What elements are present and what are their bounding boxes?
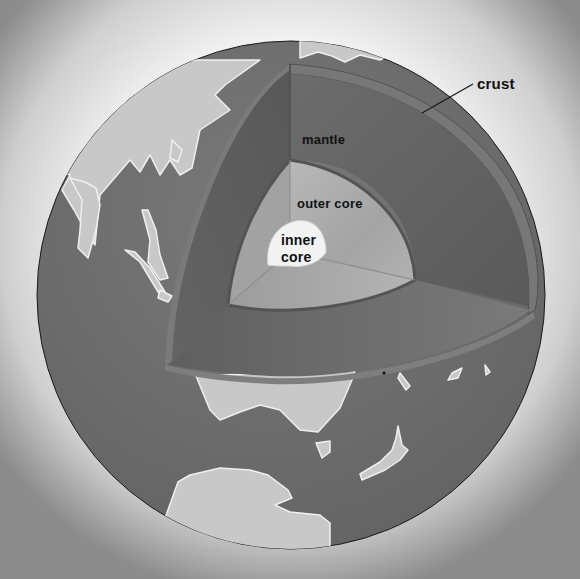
label-inner-core: inner core	[281, 232, 316, 266]
label-outer-core: outer core	[297, 197, 363, 210]
earth-diagram: crust mantle outer core inner core	[0, 0, 580, 579]
marker-dot	[383, 372, 386, 375]
label-mantle: mantle	[302, 133, 345, 146]
label-inner-core-line2: core	[281, 249, 316, 266]
label-inner-core-line1: inner	[281, 232, 316, 249]
label-crust: crust	[477, 76, 515, 91]
